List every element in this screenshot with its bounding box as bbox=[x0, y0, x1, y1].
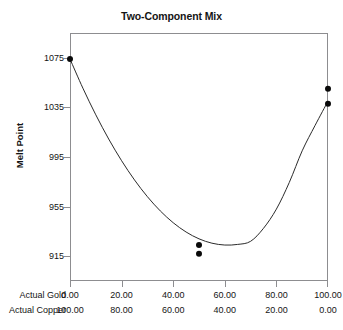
x-axis-tick-marks bbox=[70, 281, 328, 289]
fitted-curve bbox=[70, 59, 328, 245]
x-axis-row: Actual Copper100.0080.0060.0040.0020.000… bbox=[0, 304, 343, 319]
x-tick-label: 100.00 bbox=[314, 290, 342, 300]
chart-figure: Two-Component Mix Melt Point 91595599510… bbox=[0, 0, 343, 330]
x-tick-label: 40.00 bbox=[214, 305, 237, 315]
data-point bbox=[196, 242, 202, 248]
x-tick-mark bbox=[173, 281, 174, 287]
x-tick-label: 0.00 bbox=[61, 290, 79, 300]
x-tick-label: 60.00 bbox=[214, 290, 237, 300]
x-tick-label: 20.00 bbox=[265, 305, 288, 315]
data-point bbox=[67, 56, 73, 62]
x-tick-label: 20.00 bbox=[110, 290, 133, 300]
data-point bbox=[196, 251, 202, 257]
x-axis-row: Actual Gold0.0020.0040.0060.0080.00100.0… bbox=[0, 289, 343, 304]
x-tick-label: 80.00 bbox=[265, 290, 288, 300]
x-tick-mark bbox=[276, 281, 277, 287]
x-axis-label-rows: Actual Gold0.0020.0040.0060.0080.00100.0… bbox=[0, 289, 343, 319]
chart-title: Two-Component Mix bbox=[0, 10, 343, 22]
data-point bbox=[325, 101, 331, 107]
plot-canvas bbox=[70, 33, 328, 281]
x-tick-mark bbox=[225, 281, 226, 287]
x-tick-label: 100.00 bbox=[56, 305, 84, 315]
data-points-group bbox=[67, 56, 331, 257]
x-axis-row-name: Actual Gold bbox=[0, 290, 66, 300]
data-point bbox=[325, 86, 331, 92]
x-tick-label: 80.00 bbox=[110, 305, 133, 315]
y-axis-tick-marks bbox=[0, 33, 70, 281]
x-tick-label: 40.00 bbox=[162, 290, 185, 300]
x-tick-mark bbox=[327, 281, 328, 287]
x-tick-label: 60.00 bbox=[162, 305, 185, 315]
x-tick-label: 0.00 bbox=[319, 305, 337, 315]
x-tick-mark bbox=[70, 281, 71, 287]
x-tick-mark bbox=[122, 281, 123, 287]
